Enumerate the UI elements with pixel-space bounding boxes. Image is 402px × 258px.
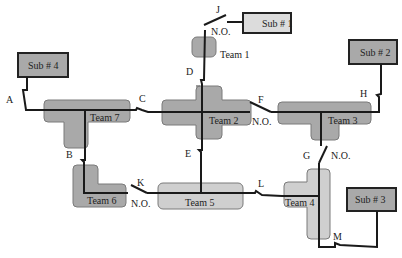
switch-g (319, 146, 327, 163)
sub-1-label: Sub # 1 (262, 18, 293, 29)
team-2-label: Team 2 (209, 115, 239, 126)
team-1-label: Team 1 (220, 49, 250, 60)
no-label-k: N.O. (131, 198, 150, 209)
switch-j-label: J (216, 4, 220, 15)
sub-2-label: Sub # 2 (360, 47, 391, 58)
sub-4-label: Sub # 4 (28, 60, 59, 71)
switch-l-label: L (258, 178, 264, 189)
switch-k-label: K (137, 177, 145, 188)
switch-a-label: A (6, 94, 14, 105)
switch-f-label: F (258, 94, 264, 105)
team-6-label: Team 6 (87, 195, 117, 206)
switch-e-label: E (185, 148, 191, 159)
switch-j (204, 15, 226, 25)
team-3-label: Team 3 (328, 115, 358, 126)
no-label-j: N.O. (211, 26, 230, 37)
no-label-g: N.O. (331, 150, 350, 161)
sub-3-label: Sub # 3 (355, 194, 386, 205)
switch-c-label: C (139, 93, 146, 104)
switch-g-label: G (303, 150, 310, 161)
team-7-label: Team 7 (90, 112, 120, 123)
switch-h-label: H (360, 88, 367, 99)
switch-b-label: B (66, 149, 73, 160)
distribution-network-diagram: Sub # 1 Sub # 2 Sub # 3 Sub # 4 Team 1 T… (0, 0, 402, 258)
team-5-label: Team 5 (185, 197, 215, 208)
team-7-area (44, 100, 130, 148)
team-4-label: Team 4 (285, 197, 315, 208)
switch-m-label: M (333, 231, 342, 242)
switch-d-label: D (186, 66, 193, 77)
no-label-f: N.O. (252, 116, 271, 127)
